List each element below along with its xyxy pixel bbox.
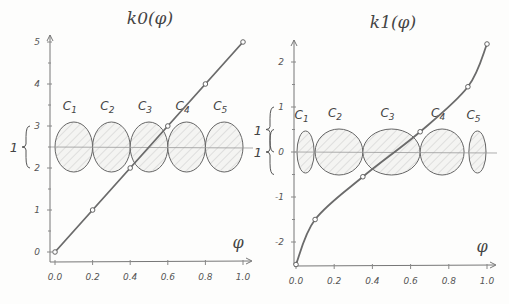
circle-label: C3 — [380, 106, 394, 122]
data-point — [418, 129, 423, 134]
y-tick-label: 1 — [34, 205, 40, 215]
circle-label: C4 — [176, 99, 190, 115]
data-point — [485, 42, 490, 47]
data-point — [466, 84, 471, 89]
circle-label: C2 — [100, 99, 114, 115]
data-point — [90, 208, 95, 213]
brace-label: 1 — [254, 145, 262, 160]
data-point — [166, 124, 171, 129]
x-tick-label: 0.4 — [123, 272, 138, 282]
x-axis-label: φ — [476, 237, 488, 256]
panel-k0: k0(φ)0123450.00.20.40.60.81.0φC1C2C3C4C5… — [10, 8, 253, 282]
circle-label: C2 — [328, 106, 342, 122]
data-point — [313, 217, 318, 222]
x-tick-label: 1.0 — [480, 276, 495, 286]
y-tick-label: 5 — [34, 37, 40, 47]
x-tick-label: 0.2 — [85, 272, 100, 282]
y-tick-label: 0 — [278, 147, 284, 157]
x-tick-label: 0.8 — [198, 272, 213, 282]
circle-c5 — [205, 122, 243, 172]
circle-label: C1 — [63, 99, 77, 115]
brace-label: 1 — [254, 123, 262, 138]
data-point — [128, 166, 133, 171]
data-point — [241, 40, 246, 45]
circle-c4 — [420, 129, 464, 175]
chart-title: k0(φ) — [127, 8, 173, 28]
x-axis-label: φ — [232, 233, 244, 252]
x-tick-label: 0.6 — [403, 276, 418, 286]
circle-label: C5 — [466, 108, 480, 124]
y-tick-label: 1 — [278, 102, 284, 112]
circle-label: C3 — [138, 99, 152, 115]
y-tick-label: -1 — [275, 192, 284, 202]
x-axis — [294, 265, 495, 266]
x-tick-label: 0.0 — [289, 276, 304, 286]
data-point — [294, 262, 299, 267]
data-point — [361, 174, 366, 179]
y-tick-label: 3 — [34, 121, 40, 131]
panel-k1: k1(φ)-2-10120.00.20.40.60.81.0φC1C2C3C4C… — [254, 12, 497, 286]
y-tick-label: 2 — [278, 57, 284, 67]
y-tick-label: 2 — [34, 163, 40, 173]
brace-icon — [22, 126, 30, 168]
x-tick-label: 1.0 — [236, 272, 251, 282]
circle-label: C1 — [294, 108, 308, 124]
brace-label: 1 — [10, 140, 18, 155]
y-tick-label: 0 — [34, 247, 40, 257]
x-tick-label: 0.6 — [161, 272, 176, 282]
x-tick-label: 0.2 — [327, 276, 342, 286]
x-tick-label: 0.4 — [365, 276, 380, 286]
data-point — [53, 250, 58, 255]
chart-title: k1(φ) — [370, 12, 416, 32]
chart-canvas: k0(φ)0123450.00.20.40.60.81.0φC1C2C3C4C5… — [0, 0, 509, 304]
circle-c5 — [469, 131, 486, 173]
circle-label: C5 — [213, 99, 227, 115]
x-tick-label: 0.0 — [48, 272, 63, 282]
x-axis — [50, 261, 251, 262]
y-tick-label: 4 — [34, 79, 40, 89]
data-point — [203, 82, 208, 87]
x-tick-label: 0.8 — [442, 276, 457, 286]
y-tick-label: -2 — [275, 237, 284, 247]
circle-c4 — [168, 122, 206, 172]
